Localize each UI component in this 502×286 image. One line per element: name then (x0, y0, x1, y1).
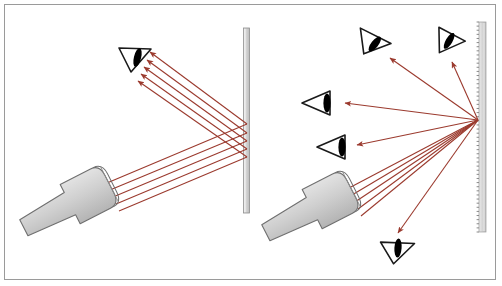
specular-reflection-panel (14, 28, 250, 247)
incident-ray (110, 133, 247, 190)
flashlight-left (14, 163, 122, 247)
flashlight-right (256, 168, 364, 252)
rough-surface-teeth (477, 22, 479, 232)
incident-ray (349, 120, 478, 188)
eye-pupil (394, 238, 403, 257)
diagram-stage (0, 0, 502, 286)
eye-pupil (366, 35, 383, 54)
flashlight-body (256, 170, 362, 253)
rough-bar (479, 22, 486, 232)
incident-ray (113, 141, 247, 197)
eye-pupil (132, 47, 144, 67)
eye-mid-left-observer (302, 91, 331, 115)
flashlight-body (14, 165, 120, 248)
eye-pupil (323, 94, 330, 113)
incident-ray (107, 124, 247, 183)
eye-bottom-observer (381, 231, 419, 266)
incident-ray-group-left (107, 124, 247, 211)
incident-ray (358, 120, 478, 209)
reflection-diagram (0, 0, 502, 286)
eye-lower-left-observer (317, 135, 346, 159)
incident-ray (119, 157, 247, 211)
reflected-ray (150, 52, 247, 124)
incident-ray (352, 120, 478, 195)
reflected-ray-group-left (138, 52, 247, 157)
reflected-ray (138, 81, 247, 157)
smooth-mirror-surface (244, 28, 250, 213)
incident-ray (361, 120, 478, 216)
eye-pupil (338, 138, 345, 157)
eye-upper-right-observer (435, 27, 466, 56)
rough-scattering-surface (477, 22, 486, 232)
incident-ray-group-right (349, 120, 478, 216)
eye-upper-left-observer (353, 28, 393, 61)
incident-ray (116, 149, 247, 204)
mirror-bar (244, 28, 250, 213)
diffuse-reflection-panel (256, 22, 486, 265)
reflected-ray (144, 67, 247, 141)
scattered-ray-group-right (345, 58, 478, 233)
